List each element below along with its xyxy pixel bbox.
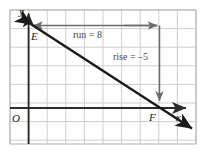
run-annotation: run = 8 (73, 30, 102, 40)
coordinate-grid-slope-diagram: y x O E F run = 8 rise = –5 (0, 0, 206, 153)
origin-label: O (12, 113, 20, 124)
point-label-f: F (149, 112, 156, 123)
figure-canvas (0, 0, 206, 153)
line-EF (32, 25, 193, 129)
x-axis-label: x (176, 112, 181, 123)
y-axis-label: y (19, 6, 24, 17)
point-label-e: E (31, 31, 38, 42)
rise-annotation: rise = –5 (113, 52, 148, 62)
